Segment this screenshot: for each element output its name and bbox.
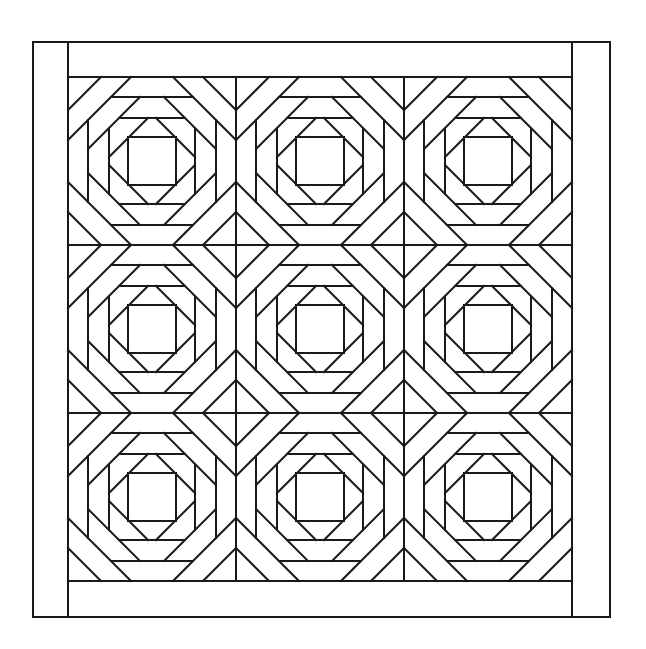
- diagonal-ring-3: [341, 413, 404, 476]
- corner-triangle: [371, 245, 404, 278]
- diagonal-ring-3: [509, 77, 572, 140]
- corner-triangle: [371, 380, 404, 413]
- diagonal-ring-2: [332, 341, 384, 393]
- diagonal-ring-2: [256, 341, 308, 393]
- corner-triangle: [68, 380, 101, 413]
- diagonal-ring-2: [500, 433, 552, 485]
- diagonal-ring-2: [88, 433, 140, 485]
- diagonal-ring-3: [509, 413, 572, 476]
- center-square: [464, 137, 512, 185]
- quilt-pattern: [0, 0, 646, 649]
- corner-triangle: [371, 212, 404, 245]
- corner-triangle: [68, 245, 101, 278]
- corner-triangle: [203, 77, 236, 110]
- diagonal-ring-3: [68, 77, 131, 140]
- diagonal-ring-3: [173, 518, 236, 581]
- center-square: [296, 473, 344, 521]
- diagonal-ring-2: [500, 173, 552, 225]
- corner-triangle: [371, 413, 404, 446]
- diagonal-ring-3: [404, 413, 467, 476]
- diagonal-ring-2: [164, 509, 216, 561]
- diagonal-ring-3: [236, 518, 299, 581]
- diagonal-ring-2: [164, 433, 216, 485]
- block-outline: [236, 413, 404, 581]
- diagonal-ring-2: [88, 173, 140, 225]
- corner-triangle: [539, 245, 572, 278]
- diagonal-ring-2: [88, 341, 140, 393]
- quilt-border: [33, 42, 610, 617]
- diagonal-ring-3: [404, 182, 467, 245]
- diagonal-ring-3: [236, 182, 299, 245]
- corner-triangle: [68, 413, 101, 446]
- center-square: [464, 473, 512, 521]
- corner-triangle: [539, 413, 572, 446]
- corner-triangle: [236, 380, 269, 413]
- diagonal-ring-2: [424, 173, 476, 225]
- diagonal-ring-3: [173, 182, 236, 245]
- diagonal-ring-3: [68, 182, 131, 245]
- diagonal-ring-3: [68, 413, 131, 476]
- diagonal-ring-3: [404, 77, 467, 140]
- diagonal-ring-3: [509, 350, 572, 413]
- diagonal-ring-2: [500, 509, 552, 561]
- corner-triangle: [236, 413, 269, 446]
- diagonal-ring-2: [424, 341, 476, 393]
- diagonal-ring-2: [500, 265, 552, 317]
- diagonal-ring-2: [88, 97, 140, 149]
- diagonal-ring-2: [256, 173, 308, 225]
- diagonal-ring-2: [332, 265, 384, 317]
- corner-triangle: [404, 212, 437, 245]
- diagonal-ring-3: [236, 245, 299, 308]
- diagonal-ring-3: [341, 182, 404, 245]
- diagonal-ring-3: [404, 245, 467, 308]
- pineapple-block: [404, 245, 572, 413]
- diagonal-ring-3: [236, 77, 299, 140]
- diagonal-ring-2: [332, 173, 384, 225]
- diagonal-ring-3: [173, 77, 236, 140]
- diagonal-ring-2: [256, 265, 308, 317]
- center-square: [296, 305, 344, 353]
- diagonal-ring-2: [500, 341, 552, 393]
- corner-triangle: [236, 77, 269, 110]
- diagonal-ring-3: [404, 350, 467, 413]
- diagonal-ring-3: [173, 350, 236, 413]
- diagonal-ring-3: [236, 350, 299, 413]
- diagonal-ring-3: [341, 350, 404, 413]
- block-outline: [404, 413, 572, 581]
- corner-triangle: [404, 548, 437, 581]
- diagonal-ring-2: [332, 509, 384, 561]
- corner-triangle: [371, 548, 404, 581]
- block-outline: [68, 413, 236, 581]
- corner-triangle: [203, 212, 236, 245]
- diagonal-ring-2: [424, 433, 476, 485]
- diagonal-ring-3: [341, 518, 404, 581]
- center-square: [128, 305, 176, 353]
- diagonal-ring-3: [68, 518, 131, 581]
- block-outline: [68, 245, 236, 413]
- diagonal-ring-2: [256, 433, 308, 485]
- diagonal-ring-3: [341, 245, 404, 308]
- diagonal-ring-2: [332, 97, 384, 149]
- diagonal-ring-2: [424, 509, 476, 561]
- diagonal-ring-2: [256, 97, 308, 149]
- diagonal-ring-3: [68, 350, 131, 413]
- corner-triangle: [404, 413, 437, 446]
- block-outline: [236, 245, 404, 413]
- diagonal-ring-2: [256, 509, 308, 561]
- corner-triangle: [539, 548, 572, 581]
- center-square: [128, 137, 176, 185]
- corner-triangle: [68, 77, 101, 110]
- center-square: [464, 305, 512, 353]
- corner-triangle: [236, 212, 269, 245]
- corner-triangle: [404, 380, 437, 413]
- outer-border: [33, 42, 610, 617]
- diagonal-ring-2: [88, 265, 140, 317]
- diagonal-ring-3: [173, 245, 236, 308]
- diagonal-ring-2: [164, 341, 216, 393]
- diagonal-ring-2: [88, 509, 140, 561]
- diagonal-ring-3: [236, 413, 299, 476]
- quilt-blocks: [68, 77, 572, 581]
- diagonal-ring-3: [341, 77, 404, 140]
- corner-triangle: [68, 212, 101, 245]
- diagonal-ring-3: [509, 518, 572, 581]
